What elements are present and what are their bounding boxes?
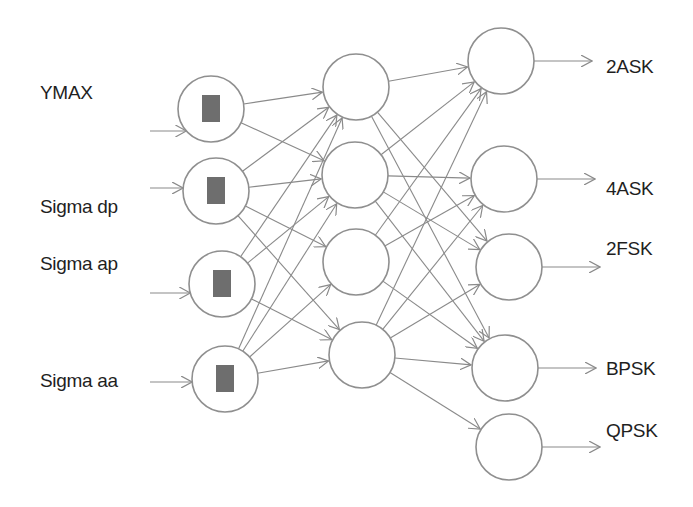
input-label-sigma-ap: Sigma ap <box>40 253 118 275</box>
hidden-node <box>323 229 389 295</box>
edge-hidden-1-output-1 <box>388 176 470 178</box>
input-node-box <box>216 365 234 392</box>
edge-input-2-hidden-1 <box>248 197 329 264</box>
output-node <box>476 414 542 480</box>
output-label-2ask: 2ASK <box>606 56 653 78</box>
output-label-qpsk: QPSK <box>606 420 658 442</box>
node-circle <box>476 234 542 300</box>
node-circle <box>476 414 542 480</box>
output-node <box>471 146 537 212</box>
edge-input-3-hidden-1 <box>243 204 337 352</box>
input-node <box>183 158 249 224</box>
edge-hidden-2-output-0 <box>375 89 481 236</box>
input-node-box <box>213 270 231 297</box>
edge-input-1-hidden-0 <box>243 107 329 171</box>
edge-input-3-hidden-3 <box>258 361 329 373</box>
input-label-ymax: ΥMAX <box>40 82 93 104</box>
node-circle <box>471 146 537 212</box>
edge-hidden-0-output-3 <box>372 116 490 338</box>
edge-hidden-3-output-2 <box>390 285 480 339</box>
edge-hidden-3-output-3 <box>395 358 471 365</box>
input-node <box>189 251 255 317</box>
input-node <box>192 346 258 412</box>
output-label-2fsk: 2FSK <box>606 238 652 260</box>
node-circle <box>323 54 389 120</box>
edge-input-1-hidden-1 <box>249 179 321 187</box>
node-circle <box>329 322 395 388</box>
hidden-node <box>329 322 395 388</box>
edge-hidden-0-output-0 <box>389 67 468 81</box>
input-node-box <box>207 177 225 204</box>
hidden-node <box>323 54 389 120</box>
output-label-4ask: 4ASK <box>606 178 653 200</box>
edge-hidden-3-output-1 <box>383 206 483 330</box>
node-circle <box>323 229 389 295</box>
input-node-box <box>202 95 220 122</box>
output-node <box>468 28 534 94</box>
input-label-sigma-dp: Sigma dp <box>40 196 118 218</box>
nodes-layer <box>178 28 542 480</box>
hidden-node <box>322 142 388 208</box>
node-circle <box>322 142 388 208</box>
output-node <box>472 335 538 401</box>
output-label-bpsk: BPSK <box>606 358 656 380</box>
node-circle <box>468 28 534 94</box>
edge-hidden-3-output-4 <box>390 373 480 430</box>
edge-input-0-hidden-0 <box>244 92 323 104</box>
node-circle <box>472 335 538 401</box>
input-label-sigma-aa: Sigma aa <box>40 370 118 392</box>
input-node <box>178 76 244 142</box>
output-node <box>476 234 542 300</box>
